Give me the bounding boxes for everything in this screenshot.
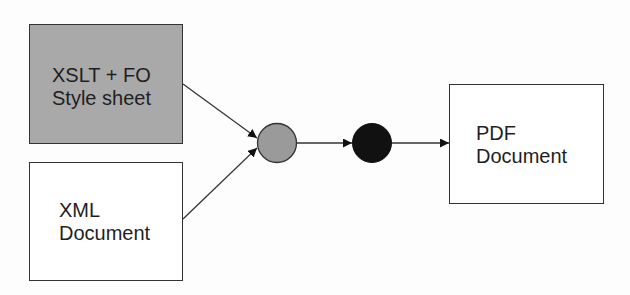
pdf-label-line2: Document: [476, 145, 567, 168]
pdf-label-line1: PDF: [476, 122, 567, 145]
pdf-document-label: PDF Document: [476, 122, 567, 168]
xslt-label-line1: XSLT + FO: [52, 64, 151, 87]
xslt-label-line2: Style sheet: [52, 87, 151, 110]
diagram-canvas: XSLT + FO Style sheet XML Document PDF D…: [0, 0, 630, 295]
processor-black-circle: [353, 124, 392, 163]
processor-gray-circle: [258, 124, 297, 163]
xml-label-line2: Document: [59, 222, 150, 245]
xslt-fo-stylesheet-label: XSLT + FO Style sheet: [52, 64, 151, 110]
arrow-xml-to-processor: [183, 148, 257, 219]
arrow-xslt-to-processor: [183, 84, 257, 138]
xml-document-label: XML Document: [59, 199, 150, 245]
xml-label-line1: XML: [59, 199, 150, 222]
